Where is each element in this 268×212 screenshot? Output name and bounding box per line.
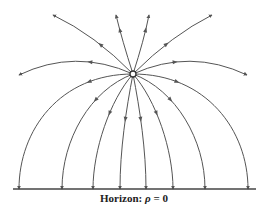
arrowhead-icon xyxy=(117,27,122,33)
field-line-right-up xyxy=(133,15,149,74)
lower-field-lines xyxy=(19,74,248,189)
horizon-label-prefix: Horizon: xyxy=(100,192,145,204)
upper-field-lines xyxy=(19,15,247,75)
field-line-arc-6 xyxy=(133,74,173,189)
horizon-label-suffix: = 0 xyxy=(151,192,168,204)
field-line-arc-8 xyxy=(133,74,248,189)
field-line-arc-7 xyxy=(133,74,205,189)
arrowhead-icon xyxy=(107,110,113,116)
field-line-right-side xyxy=(133,61,247,75)
arrowhead-icon xyxy=(174,79,180,85)
field-line-far-right-up xyxy=(133,15,212,74)
arrowhead-icon xyxy=(172,60,177,65)
field-line-arc-1 xyxy=(19,74,133,189)
field-line-arc-2 xyxy=(62,74,133,189)
field-line-arc-4 xyxy=(120,74,133,189)
field-line-arc-5 xyxy=(133,74,146,189)
horizon-label: Horizon: ρ = 0 xyxy=(0,192,268,204)
field-line-far-left-up xyxy=(53,15,133,74)
field-line-diagram xyxy=(0,0,268,212)
field-line-arc-3 xyxy=(93,74,133,189)
source-point-icon xyxy=(130,71,136,77)
arrowhead-icon xyxy=(86,79,92,85)
arrowhead-icon xyxy=(87,60,92,65)
field-line-left-side xyxy=(19,61,133,75)
arrowhead-icon xyxy=(154,110,160,116)
